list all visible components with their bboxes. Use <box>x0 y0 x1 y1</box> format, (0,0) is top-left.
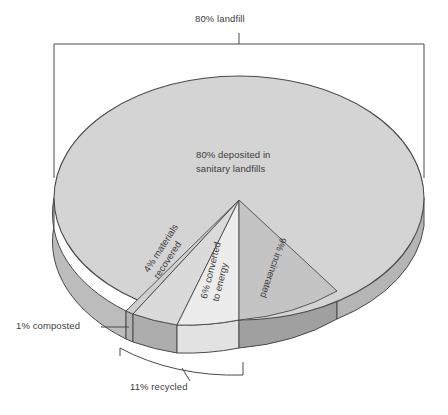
bracket-recycled-stem <box>182 368 190 381</box>
label-recycled: 11% recycled <box>130 381 188 393</box>
label-top-landfill: 80% landfill <box>195 13 245 25</box>
label-center-landfill: 80% deposited in sanitary landfills <box>196 148 316 175</box>
label-composted: 1% composted <box>16 320 80 332</box>
pie-chart-graphic <box>0 0 448 415</box>
label-center-line1: 80% deposited in <box>196 149 271 160</box>
label-center-line2: sanitary landfills <box>196 163 265 174</box>
figure-canvas: 80% landfill 80% deposited in sanitary l… <box>0 0 448 415</box>
